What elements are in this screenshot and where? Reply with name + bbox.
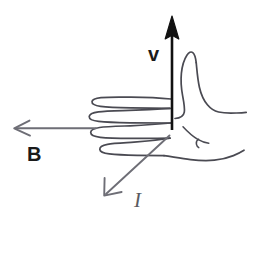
vector-i-arrow bbox=[104, 136, 169, 196]
vector-v-label: v bbox=[148, 44, 159, 64]
ring-finger-outline bbox=[91, 123, 171, 138]
diagram-canvas: v B I bbox=[0, 0, 268, 278]
vector-b-arrow bbox=[14, 121, 96, 136]
middle-finger-outline bbox=[89, 108, 171, 123]
thumb-back-edge bbox=[196, 63, 246, 114]
vector-v-arrowhead bbox=[165, 16, 179, 39]
vector-v-arrow bbox=[165, 16, 179, 130]
vector-i-shaft bbox=[106, 136, 170, 195]
right-hand-rule-figure bbox=[0, 0, 268, 278]
vector-i-label: I bbox=[134, 190, 141, 211]
palm-heel-outline bbox=[164, 150, 244, 160]
right-hand-outline bbox=[89, 52, 246, 161]
little-finger-outline bbox=[100, 138, 170, 156]
vector-b-label: B bbox=[27, 144, 41, 164]
thumb-outline bbox=[175, 52, 196, 119]
index-finger-outline bbox=[92, 97, 171, 108]
thenar-crease-line bbox=[183, 127, 209, 143]
